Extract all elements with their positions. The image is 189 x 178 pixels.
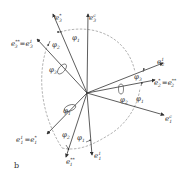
svg-text:φ1: φ1 bbox=[136, 95, 144, 104]
svg-text:φ3: φ3 bbox=[134, 73, 142, 82]
svg-text:φ2: φ2 bbox=[52, 41, 60, 50]
svg-text:φ2: φ2 bbox=[120, 96, 128, 105]
vector-e1starstar bbox=[66, 93, 87, 157]
svg-text:φ1: φ1 bbox=[72, 34, 80, 43]
svg-text:φ2: φ2 bbox=[62, 131, 70, 140]
vector-e3c bbox=[87, 14, 88, 93]
rotation-diagram: ec3 e*3 e**3=e13 e12 e*2=e**2 ec1 e11=e*… bbox=[0, 0, 189, 178]
svg-text:ec3: ec3 bbox=[89, 13, 96, 23]
svg-text:e*2=e**2: e*2=e**2 bbox=[154, 78, 177, 88]
svg-text:e**1: e**1 bbox=[66, 157, 75, 167]
svg-text:e*3: e*3 bbox=[55, 13, 62, 23]
svg-text:e11=e*1: e11=e*1 bbox=[16, 135, 37, 145]
svg-text:φ1: φ1 bbox=[77, 134, 85, 143]
svg-text:e**3=e13: e**3=e13 bbox=[11, 39, 33, 49]
svg-text:e11: e11 bbox=[94, 151, 101, 161]
angle-labels: φ1 φ2 φ3 φ3 φ1 φ2 φ1 φ2 φ1 bbox=[49, 34, 144, 143]
svg-text:e12: e12 bbox=[157, 57, 165, 67]
vector-e3starstar bbox=[37, 39, 87, 93]
vector-e3star bbox=[53, 14, 87, 93]
vector-e2star bbox=[87, 80, 155, 93]
loop-phi3-upper bbox=[56, 62, 68, 75]
loop-phi2-right bbox=[119, 84, 124, 94]
svg-text:φ3: φ3 bbox=[49, 66, 57, 75]
svg-text:φ1: φ1 bbox=[63, 107, 71, 116]
panel-label: b bbox=[14, 161, 19, 170]
svg-text:ec1: ec1 bbox=[165, 114, 172, 124]
vectors bbox=[37, 14, 164, 157]
vector-e2-1 bbox=[87, 63, 163, 93]
